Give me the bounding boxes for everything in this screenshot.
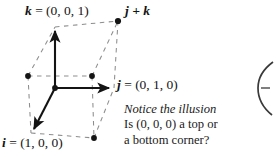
cube-vertex-dots <box>25 18 121 141</box>
illusion-note-line-2: Is (0, 0, 0) a top or <box>124 117 218 132</box>
vertex-dot-origin <box>52 85 58 91</box>
vertex-dot-back-top <box>89 73 95 79</box>
illusion-note-line-3: a bottom corner? <box>124 133 218 148</box>
k-vector-symbol: k <box>25 3 32 18</box>
cube-dashed-edges <box>28 21 118 138</box>
cube-edge-vertical-middle <box>92 76 94 138</box>
cube-edge-top-right <box>92 21 118 76</box>
k-coords-text: = (0, 0, 1) <box>32 3 89 18</box>
cube-edge-top-left <box>28 27 55 76</box>
j-plus-k-label: j + k <box>125 4 150 18</box>
cube-edge-bottom-right <box>94 88 114 138</box>
j-axis-label: j = (0, 1, 0) <box>117 78 178 92</box>
vertex-dot-j-plus-k <box>115 18 121 24</box>
i-axis-label: i = (1, 0, 0) <box>2 136 63 150</box>
cube-edge-vertical-left <box>28 76 31 133</box>
i-coords-text: = (1, 0, 0) <box>6 135 63 150</box>
cube-edge-top-front <box>55 21 118 27</box>
vertex-dot-i-plus-k <box>25 73 31 79</box>
adjacent-figure-parenthesis-icon <box>258 62 273 115</box>
axis-vectors <box>34 31 109 129</box>
i-axis-arrow <box>34 88 55 129</box>
illusion-note-line-1: Notice the illusion <box>124 102 218 117</box>
illusion-note: Notice the illusion Is (0, 0, 0) a top o… <box>124 102 218 148</box>
vector-basis-figure: k = (0, 0, 1) j + k j = (0, 1, 0) i = (1… <box>0 0 276 157</box>
k-axis-label: k = (0, 0, 1) <box>25 4 89 18</box>
j-coords-text: = (0, 1, 0) <box>121 77 178 92</box>
vertex-dot-i-plus-j <box>91 135 97 141</box>
